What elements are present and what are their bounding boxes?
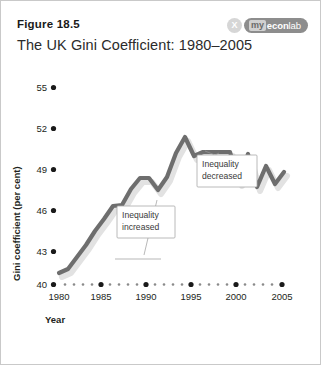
logo-my-text: my [249, 20, 266, 31]
annotation-line-1: Inequality [122, 210, 159, 220]
axis-dot [244, 283, 247, 286]
x-tick-dot [233, 282, 238, 287]
x-tick-label: 1980 [48, 291, 69, 302]
x-tick-dot [143, 282, 148, 287]
axis-dot [226, 283, 229, 286]
y-tick-dot [51, 126, 56, 131]
axis-dot [271, 283, 274, 286]
annotation-line-1: Inequality [202, 159, 239, 169]
axis-dot [136, 283, 139, 286]
y-tick-label: 40 [36, 279, 47, 290]
axis-dot [217, 283, 220, 286]
y-axis: 55 52 49 46 43 40 [36, 82, 56, 290]
x-tick-label: 1985 [90, 291, 111, 302]
x-tick-dot [188, 282, 193, 287]
y-tick-label: 46 [36, 205, 47, 216]
y-tick-label: 55 [36, 82, 47, 93]
axis-dot [82, 283, 85, 286]
axis-dot [208, 283, 211, 286]
chart-plot-area: 55 52 49 46 43 40 Gini coefficient (per … [1, 59, 321, 309]
figure-label: Figure 18.5 [17, 18, 80, 30]
axis-dot [109, 283, 112, 286]
y-tick-dot [51, 249, 56, 254]
x-tick-label: 2000 [225, 291, 246, 302]
axis-dot [73, 283, 76, 286]
x-tick-label: 1990 [135, 291, 156, 302]
x-axis-title: Year [45, 314, 65, 325]
y-tick-label: 43 [36, 246, 47, 257]
axis-dot [163, 283, 166, 286]
x-axis: 1980 1985 1990 1995 2000 2005 [48, 282, 292, 302]
figure-header: Figure 18.5 X myeconlab The UK Gini Coef… [1, 1, 321, 47]
axis-dot [154, 283, 157, 286]
annotation-line-2: decreased [202, 171, 242, 181]
annotation-line-2: increased [122, 222, 159, 232]
logo-lab-text: lab [289, 21, 301, 31]
gini-line-chart: 55 52 49 46 43 40 Gini coefficient (per … [1, 59, 321, 309]
axis-dot [91, 283, 94, 286]
chart-title: The UK Gini Coefficient: 1980–2005 [17, 37, 252, 53]
x-tick-label: 2005 [271, 291, 292, 302]
y-tick-dot [51, 167, 56, 172]
y-tick-label: 52 [36, 123, 47, 134]
x-tick-dot [98, 282, 103, 287]
logo-econ-text: econ [267, 21, 289, 31]
annotation-inequality-decreased: Inequality decreased [197, 151, 257, 187]
y-axis-title: Gini coefficient (per cent) [11, 166, 22, 281]
axis-dot [64, 283, 67, 286]
axis-dot [127, 283, 130, 286]
axis-dot [172, 283, 175, 286]
annotation-inequality-increased: Inequality increased [115, 200, 175, 259]
y-tick-dot [51, 282, 56, 287]
y-tick-dot [51, 208, 56, 213]
figure-card: Figure 18.5 X myeconlab The UK Gini Coef… [0, 0, 321, 365]
myeconlab-wordmark: myeconlab [244, 18, 308, 33]
y-tick-label: 49 [36, 164, 47, 175]
axis-dot [253, 283, 256, 286]
x-tick-dot [279, 282, 284, 287]
axis-dot [262, 283, 265, 286]
y-tick-dot [51, 85, 56, 90]
axis-dot [199, 283, 202, 286]
axis-dot [118, 283, 121, 286]
axis-dot [181, 283, 184, 286]
myeconlab-x-icon: X [227, 18, 242, 33]
x-tick-label: 1995 [180, 291, 201, 302]
myeconlab-logo: X myeconlab [227, 18, 308, 33]
